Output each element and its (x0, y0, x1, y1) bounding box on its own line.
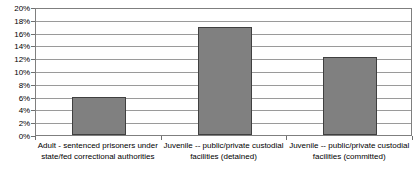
y-tick-mark (31, 110, 35, 111)
x-category-label: Juvenile -- public/private custodial fac… (286, 141, 412, 162)
y-axis: 0%2%4%6%8%10%12%14%16%18%20% (0, 0, 33, 181)
y-tick-label: 12% (14, 55, 30, 64)
y-tick-label: 18% (14, 16, 30, 25)
y-tick-mark (31, 123, 35, 124)
bar-chart: 0%2%4%6%8%10%12%14%16%18%20% Adult - sen… (0, 0, 418, 181)
y-tick-mark (31, 72, 35, 73)
y-tick-label: 6% (19, 93, 30, 102)
x-axis: Adult - sentenced prisoners under state/… (35, 141, 412, 181)
y-tick-mark (31, 34, 35, 35)
y-tick-mark (31, 85, 35, 86)
y-tick-mark (31, 59, 35, 60)
bar[interactable] (198, 27, 252, 135)
gridline (36, 21, 411, 22)
x-tick-mark (286, 136, 287, 140)
y-tick-label: 2% (19, 119, 30, 128)
x-category-label: Adult - sentenced prisoners under state/… (35, 141, 161, 162)
x-category-label: Juvenile -- public/private custodial fac… (161, 141, 287, 162)
y-tick-label: 10% (14, 68, 30, 77)
y-tick-mark (31, 46, 35, 47)
y-tick-label: 14% (14, 42, 30, 51)
y-tick-label: 4% (19, 106, 30, 115)
y-tick-label: 8% (19, 80, 30, 89)
y-tick-label: 16% (14, 29, 30, 38)
y-tick-mark (31, 21, 35, 22)
x-tick-mark (35, 136, 36, 140)
bar[interactable] (323, 57, 377, 135)
plot-area (35, 8, 412, 136)
bar[interactable] (72, 97, 126, 135)
y-tick-mark (31, 8, 35, 9)
y-tick-mark (31, 98, 35, 99)
x-tick-mark (161, 136, 162, 140)
y-tick-label: 0% (19, 132, 30, 141)
y-tick-label: 20% (14, 4, 30, 13)
x-tick-mark (412, 136, 413, 140)
